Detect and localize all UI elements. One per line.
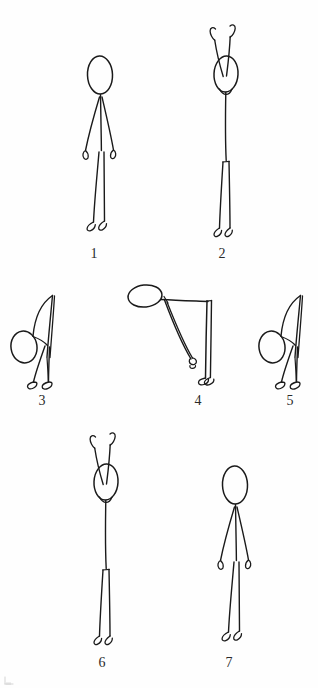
figure-label-2: 2 [210,246,234,262]
figure-3-left-leg [34,346,46,382]
figure-7-right-foot [234,631,242,640]
figure-4-torso [161,300,208,302]
figure-5-head [257,329,287,364]
figure-2-left-leg [220,162,224,228]
figure-5-left-leg [282,346,294,382]
figure-6-right-hand [110,433,115,445]
figure-label-1: 1 [82,246,106,262]
figure-1-right-leg [104,152,105,221]
figure-2-head [213,55,239,92]
figure-1-right-hand [111,150,116,159]
figure-2-right-foot [225,228,232,237]
figure-7-standing [218,466,251,641]
figure-7-left-arm [221,507,235,561]
figure-label-6: 6 [90,655,114,671]
figure-4-hands-lower [190,366,196,369]
figure-2-right-hand [230,25,235,37]
figure-1-right-foot [99,221,107,230]
figure-2-hip [223,161,230,162]
figure-7-left-foot [222,632,230,641]
figure-1-left-arm [86,97,100,151]
figure-4-hands [189,358,196,365]
figure-7-torso [236,505,237,561]
figure-4-head [127,283,163,308]
figure-7-head [222,466,248,505]
figure-5-hands [295,358,296,382]
figure-5-left-foot [276,382,285,389]
figure-4-deep-bend [127,283,214,385]
figure-1-head [87,56,113,95]
figure-7-right-arm [237,507,249,560]
figure-6-left-foot [94,636,102,645]
scan-artifact-mark [4,676,18,686]
figure-6-hip [103,569,110,570]
figure-1-left-foot [87,222,95,231]
figure-6-left-leg [100,570,104,636]
figure-6-left-arm [95,448,104,485]
figure-1-left-hand [83,151,88,160]
figure-4-arm-inner [167,302,193,358]
figure-7-right-leg [239,562,240,631]
figure-2-torso [225,93,226,161]
figure-7-right-hand [246,560,251,569]
figure-6-head [93,463,119,500]
figure-layer [0,0,318,688]
figure-label-7: 7 [217,655,241,671]
figure-4-leg-outer [206,301,208,378]
figure-6-left-hand [90,436,95,448]
figure-3-hands [47,358,48,382]
figure-label-4: 4 [186,393,210,409]
figure-7-left-hand [218,560,223,569]
figure-1-torso [101,95,102,151]
figure-6-torso [105,501,106,569]
figure-label-3: 3 [30,393,54,409]
figure-3-right-foot [42,382,52,389]
figure-6-right-leg [109,570,110,637]
figure-6-right-foot [105,636,112,645]
figure-7-left-leg [229,562,235,632]
figure-1-right-arm [102,97,114,150]
figure-1-standing [83,56,116,231]
figure-2-arms-overhead [210,25,239,237]
figure-3-left-foot [28,382,37,389]
diagram-sheet: 1 2 3 4 5 6 7 [0,0,318,688]
figure-4-leg-inner [210,301,211,378]
figure-label-5: 5 [278,393,302,409]
figure-2-left-foot [214,228,222,237]
figure-1-left-leg [94,152,100,222]
figure-3-head [9,329,39,364]
figure-2-right-leg [229,162,230,229]
stick-figures-drawing [0,0,318,688]
figure-6-arms-overhead [90,433,119,645]
figure-2-left-arm [215,40,224,77]
figure-5-forward-bend [257,296,303,390]
figure-2-left-hand [210,28,215,40]
figure-5-right-foot [290,382,300,389]
figure-3-forward-bend [9,296,55,390]
